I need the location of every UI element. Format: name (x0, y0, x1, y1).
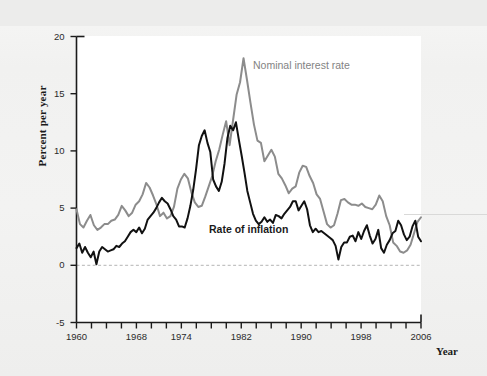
y-tick-label: 5 (43, 202, 65, 213)
x-tick-label: 1960 (57, 331, 97, 342)
y-tick-label: 20 (43, 31, 65, 42)
y-tick-label: 0 (43, 259, 65, 270)
x-tick-label: 2006 (401, 331, 441, 342)
x-tick-label: 1974 (161, 331, 201, 342)
x-axis-title: Year (436, 345, 458, 357)
series-label-inflation: Rate of inflation (209, 223, 288, 235)
y-tick-label: 15 (43, 88, 65, 99)
x-tick-label: 1998 (341, 331, 381, 342)
y-tick-label: 10 (43, 145, 65, 156)
x-tick-label: 1990 (281, 331, 321, 342)
y-axis-title: Percent per year (36, 56, 48, 196)
x-tick-label: 1968 (116, 331, 156, 342)
series-label-nominal: Nominal interest rate (253, 59, 350, 71)
chart-canvas (0, 0, 487, 376)
series-line-rate-of-inflation (77, 122, 422, 264)
figure-container: Percent per year Year Nominal interest r… (0, 0, 487, 376)
y-tick-label: -5 (43, 317, 65, 328)
x-tick-label: 1982 (221, 331, 261, 342)
